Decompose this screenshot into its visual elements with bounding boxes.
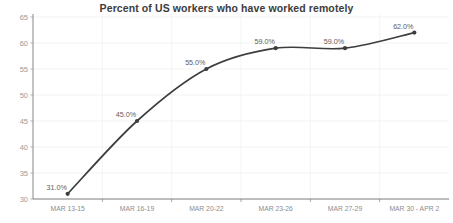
chart-container: Percent of US workers who have worked re…	[0, 0, 453, 223]
x-tick-label: MAR 16-19	[120, 205, 155, 212]
x-tick-label: MAR 13-15	[50, 205, 85, 212]
y-tick-label: 45	[20, 117, 28, 126]
x-tick-label: MAR 27-29	[328, 205, 363, 212]
data-point-label: 59.0%	[254, 37, 275, 46]
data-point-marker[interactable]	[343, 46, 347, 50]
x-tick-label: MAR 20-22	[189, 205, 224, 212]
data-point-marker[interactable]	[135, 119, 139, 123]
y-tick-label: 60	[20, 39, 28, 48]
data-point-label: 31.0%	[46, 183, 67, 192]
data-point-marker[interactable]	[274, 46, 278, 50]
data-point-label: 62.0%	[393, 22, 414, 31]
x-tick-label: MAR 23-26	[258, 205, 293, 212]
data-point-marker[interactable]	[66, 192, 70, 196]
x-axis-line-group	[33, 199, 449, 202]
y-tick-label: 65	[20, 13, 28, 22]
data-point-marker[interactable]	[412, 30, 416, 34]
line-chart-plot: 3035404550556065 MAR 13-15MAR 16-19MAR 2…	[0, 0, 453, 223]
data-point-marker[interactable]	[204, 67, 208, 71]
y-tick-label: 30	[20, 195, 28, 204]
data-point-label: 59.0%	[324, 37, 345, 46]
y-tick-label: 40	[20, 143, 28, 152]
y-tick-label: 50	[20, 91, 28, 100]
y-tick-label: 35	[20, 169, 28, 178]
x-tick-label: MAR 30 - APR 2	[389, 205, 439, 212]
data-point-labels: 31.0%45.0%55.0%59.0%59.0%62.0%	[46, 22, 414, 192]
data-point-label: 45.0%	[116, 110, 137, 119]
y-tick-label: 55	[20, 65, 28, 74]
data-point-label: 55.0%	[185, 58, 206, 67]
x-axis-tick-labels: MAR 13-15MAR 16-19MAR 20-22MAR 23-26MAR …	[50, 205, 439, 212]
y-axis-tick-labels: 3035404550556065	[20, 13, 33, 204]
